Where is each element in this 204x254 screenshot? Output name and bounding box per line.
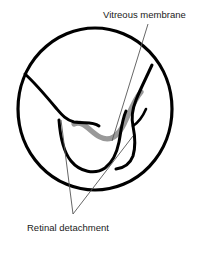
label-vitreous-membrane: Vitreous membrane xyxy=(103,9,186,20)
label-retinal-detachment: Retinal detachment xyxy=(27,222,109,233)
retinal-detachment-diagram: Vitreous membrane Retinal detachment xyxy=(0,0,204,254)
sclera-outline xyxy=(18,28,172,190)
diagram-canvas: Vitreous membrane Retinal detachment xyxy=(0,0,204,254)
